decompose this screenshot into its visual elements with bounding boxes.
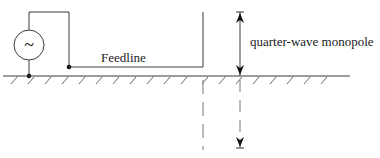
- feedline: Feedline: [69, 12, 203, 67]
- monopole-label: quarter-wave monopole: [250, 34, 374, 49]
- monopole-diagram: ~ Feedline: [0, 0, 380, 158]
- ac-source: ~: [14, 30, 44, 78]
- quarter-wave-dimension: quarter-wave monopole: [236, 12, 374, 76]
- ac-source-icon: ~: [24, 35, 34, 55]
- ground-plane: [3, 76, 350, 84]
- ground-hatching: [11, 77, 327, 84]
- feedline-label: Feedline: [101, 50, 146, 65]
- image-arrow-down-icon: [236, 137, 244, 147]
- source-wiring: [29, 12, 71, 69]
- image-dimension: [236, 80, 244, 148]
